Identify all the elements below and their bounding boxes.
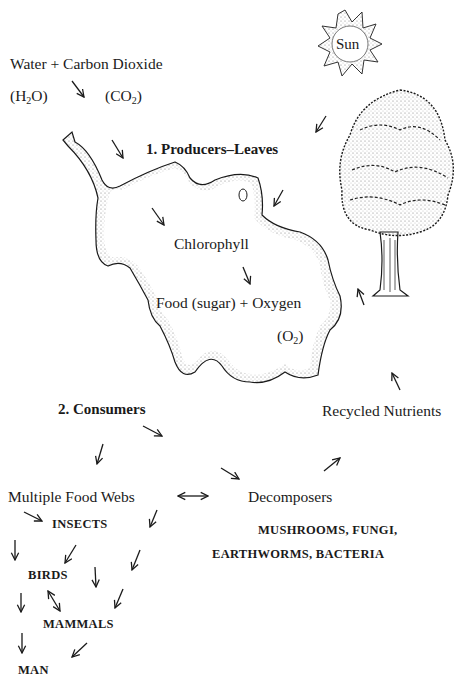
leaf-illustration [63, 132, 341, 383]
sun-label: Sun [336, 36, 359, 53]
insects-label: INSECTS [52, 518, 108, 531]
decomposers-label: Decomposers [248, 489, 332, 505]
recycled-nutrients-label: Recycled Nutrients [322, 403, 441, 419]
water-formula-post: O) [31, 87, 47, 104]
decomposer-examples-line2: EARTHWORMS, BACTERIA [212, 548, 384, 561]
diagram-graphics [0, 0, 465, 686]
o2-formula-pre: (O [277, 327, 293, 344]
co2-formula-pre: (CO [105, 87, 132, 104]
decomposer-examples-line1: MUSHROOMS, FUNGI, [258, 524, 397, 537]
co2-formula-post: ) [137, 87, 142, 104]
producers-heading: 1. Producers–Leaves [146, 142, 278, 157]
food-oxygen-label: Food (sugar) + Oxygen [156, 295, 301, 311]
water-formula-pre: (H [10, 87, 26, 104]
inputs-label: Water + Carbon Dioxide [10, 56, 163, 72]
water-formula: (H2O) [10, 88, 48, 104]
chlorophyll-label: Chlorophyll [174, 236, 249, 252]
food-webs-label: Multiple Food Webs [8, 489, 135, 505]
o2-formula-post: ) [298, 327, 303, 344]
o2-formula: (O2) [277, 328, 304, 344]
man-label: MAN [18, 664, 49, 677]
birds-label: BIRDS [28, 569, 68, 582]
co2-formula: (CO2) [105, 88, 142, 104]
consumers-heading: 2. Consumers [58, 402, 146, 417]
mammals-label: MAMMALS [43, 618, 114, 631]
tree-illustration [340, 90, 454, 296]
